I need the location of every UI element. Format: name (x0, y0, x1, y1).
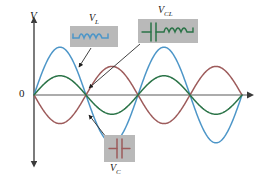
callout-vcl-label: VCL (158, 5, 173, 18)
pointer-vcl (89, 44, 140, 88)
capacitor-inductor-icon (138, 19, 198, 43)
origin-label: 0 (19, 88, 25, 99)
callout-vc-label: VC (110, 163, 121, 176)
callout-vl-label-sub: L (95, 18, 99, 26)
callout-vc-box (104, 135, 135, 162)
y-axis-label: V (30, 10, 37, 21)
waveform-figure: V 0 VL VCL (0, 0, 263, 181)
pointer-vc (89, 115, 106, 137)
callout-vcl-box (138, 19, 198, 43)
inductor-icon (70, 26, 118, 47)
callout-vcl-label-sub: CL (164, 10, 173, 18)
callout-vl-label: VL (89, 13, 99, 26)
capacitor-icon (104, 135, 135, 162)
callout-vc-label-sub: C (116, 168, 121, 176)
callout-vl-box (70, 26, 118, 47)
pointer-vl (79, 48, 91, 67)
